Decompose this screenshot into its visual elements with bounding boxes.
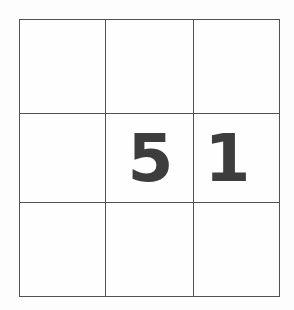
grid-cell-r0c1[interactable]	[106, 20, 194, 114]
grid-cell-r0c2[interactable]	[194, 20, 280, 114]
grid-cell-r1c0[interactable]	[20, 114, 106, 203]
grid-figure: 5 1	[0, 0, 294, 310]
grid-row-2	[20, 203, 280, 297]
grid-cell-value: 1	[185, 126, 270, 192]
grid-cell-r1c2[interactable]: 1	[194, 114, 280, 203]
grid-cell-r1c1[interactable]: 5	[106, 114, 194, 203]
grid-cell-value: 5	[107, 126, 194, 192]
grid-row-0	[20, 20, 280, 114]
grid-cell-r2c2[interactable]	[194, 203, 280, 297]
grid-cell-r0c0[interactable]	[20, 20, 106, 114]
grid-row-1: 5 1	[20, 114, 280, 203]
number-grid: 5 1	[19, 19, 280, 297]
grid-cell-r2c0[interactable]	[20, 203, 106, 297]
grid-cell-r2c1[interactable]	[106, 203, 194, 297]
